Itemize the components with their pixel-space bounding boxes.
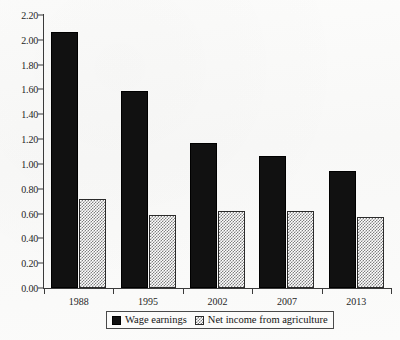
bar-1995-series-0 bbox=[121, 91, 148, 288]
legend-item-1: Net income from agriculture bbox=[195, 315, 328, 326]
bar-2007-series-0 bbox=[259, 156, 286, 288]
x-axis-tick-label: 2007 bbox=[277, 296, 297, 307]
y-axis-tick-label: 0.40 bbox=[21, 233, 38, 244]
bar-1995-series-1 bbox=[149, 215, 176, 288]
y-axis-tick-label: 0.00 bbox=[21, 283, 38, 294]
legend-item-0: Wage earnings bbox=[112, 315, 187, 326]
x-axis-tick-label: 1988 bbox=[69, 296, 89, 307]
y-axis-tick-label: 0.80 bbox=[21, 183, 38, 194]
bar-2002-series-0 bbox=[190, 143, 217, 288]
legend-swatch-icon bbox=[195, 316, 204, 325]
plot-area bbox=[44, 15, 391, 288]
x-axis-tick-mark bbox=[322, 288, 323, 294]
y-axis-tick-label: 1.00 bbox=[21, 158, 38, 169]
bar-1988-series-0 bbox=[51, 32, 78, 288]
y-axis-tick-labels: 0.000.200.400.600.801.001.201.401.601.80… bbox=[0, 0, 38, 340]
x-axis-tick-label: 2002 bbox=[208, 296, 228, 307]
y-axis-tick-label: 0.20 bbox=[21, 258, 38, 269]
y-axis-tick-label: 1.40 bbox=[21, 109, 38, 120]
bar-2007-series-1 bbox=[287, 211, 314, 288]
x-axis-tick-mark bbox=[113, 288, 114, 294]
x-axis-tick-mark bbox=[391, 288, 392, 294]
legend-swatch-icon bbox=[112, 316, 121, 325]
chart-legend: Wage earningsNet income from agriculture bbox=[106, 311, 334, 329]
x-axis-line bbox=[43, 288, 391, 289]
y-axis-tick-label: 1.20 bbox=[21, 134, 38, 145]
bar-2013-series-0 bbox=[329, 171, 356, 288]
bar-2013-series-1 bbox=[357, 217, 384, 288]
y-axis-tick-label: 2.00 bbox=[21, 34, 38, 45]
bar-chart: 0.000.200.400.600.801.001.201.401.601.80… bbox=[0, 0, 400, 340]
y-axis-tick-label: 1.80 bbox=[21, 59, 38, 70]
y-axis-tick-label: 0.60 bbox=[21, 208, 38, 219]
x-axis-tick-mark bbox=[252, 288, 253, 294]
bar-2002-series-1 bbox=[218, 211, 245, 288]
x-axis-tick-label: 1995 bbox=[138, 296, 158, 307]
legend-label: Net income from agriculture bbox=[208, 315, 328, 326]
y-axis-tick-label: 2.20 bbox=[21, 10, 38, 21]
x-axis-tick-mark bbox=[44, 288, 45, 294]
x-axis-tick-mark bbox=[183, 288, 184, 294]
y-axis-tick-label: 1.60 bbox=[21, 84, 38, 95]
x-axis-tick-label: 2013 bbox=[346, 296, 366, 307]
bar-1988-series-1 bbox=[79, 199, 106, 288]
legend-label: Wage earnings bbox=[125, 315, 187, 326]
